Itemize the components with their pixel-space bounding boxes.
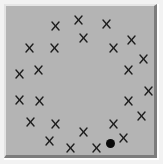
x-mark [14, 95, 24, 105]
x-icon [139, 54, 148, 64]
x-icon [102, 19, 111, 29]
target-dot [106, 139, 115, 148]
x-icon [137, 111, 146, 121]
x-icon [15, 69, 24, 79]
x-icon [124, 65, 133, 75]
x-icon [127, 35, 136, 45]
x-icon [34, 65, 43, 75]
x-icon [25, 43, 34, 53]
x-icon [119, 133, 128, 143]
x-mark [78, 33, 88, 43]
x-mark [73, 15, 83, 25]
x-mark [123, 96, 133, 106]
x-mark [24, 43, 34, 53]
x-icon [51, 21, 60, 31]
x-mark [126, 35, 136, 45]
x-icon [79, 127, 88, 137]
x-mark [25, 117, 35, 127]
x-icon [92, 143, 101, 153]
x-mark [138, 54, 148, 64]
x-mark [136, 111, 146, 121]
x-mark [44, 136, 54, 146]
x-mark [108, 119, 118, 129]
x-mark [108, 43, 118, 53]
x-icon [144, 86, 153, 96]
x-icon [26, 117, 35, 127]
x-mark [118, 133, 128, 143]
x-icon [45, 136, 54, 146]
x-mark [91, 143, 101, 153]
x-mark [34, 96, 44, 106]
x-icon [109, 119, 118, 129]
x-mark [65, 143, 75, 153]
x-mark [14, 69, 24, 79]
x-mark [49, 43, 59, 53]
x-mark [50, 21, 60, 31]
x-icon [51, 119, 60, 129]
x-icon [124, 96, 133, 106]
x-mark [50, 119, 60, 129]
x-icon [50, 43, 59, 53]
x-mark [33, 65, 43, 75]
x-mark [101, 19, 111, 29]
x-mark [78, 127, 88, 137]
x-icon [74, 15, 83, 25]
x-mark [123, 65, 133, 75]
x-mark [143, 86, 153, 96]
x-icon [79, 33, 88, 43]
x-icon [66, 143, 75, 153]
x-icon [109, 43, 118, 53]
x-icon [15, 95, 24, 105]
x-icon [35, 96, 44, 106]
